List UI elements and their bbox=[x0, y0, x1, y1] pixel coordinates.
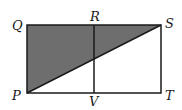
label-s: S bbox=[165, 16, 174, 31]
label-t: T bbox=[165, 88, 175, 103]
label-r: R bbox=[89, 9, 100, 24]
label-v: V bbox=[89, 94, 100, 109]
label-q: Q bbox=[12, 18, 23, 33]
label-p: P bbox=[11, 88, 21, 103]
geometry-diagram: Q R S P V T bbox=[0, 0, 182, 110]
